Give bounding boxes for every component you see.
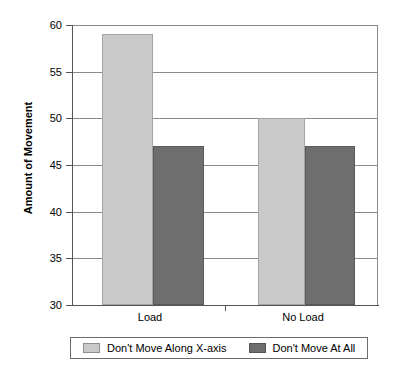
y-tick-label-45: 45 [30,159,62,171]
bar-load-dont-move-at-all [153,146,204,305]
bar-no-load-dont-move-along-x-axis [258,118,305,305]
y-tick-label-55: 55 [30,66,62,78]
y-tick-label-40: 40 [30,206,62,218]
legend-item-dont-move-along-x-axis: Don't Move Along X-axis [83,338,227,358]
y-tick-30 [66,305,72,306]
y-tick-label-30: 30 [30,299,62,311]
x-category-label-load: Load [138,311,162,323]
y-tick-55 [66,72,72,73]
bar-chart: Amount of Movement 60 55 50 45 40 35 30 … [0,0,397,374]
y-tick-50 [66,118,72,119]
legend-item-dont-move-at-all: Don't Move At All [249,338,356,358]
y-tick-40 [66,212,72,213]
y-tick-label-50: 50 [30,112,62,124]
y-tick-45 [66,165,72,166]
y-tick-35 [66,258,72,259]
legend-swatch-icon-light [83,343,100,353]
x-category-label-no-load: No Load [282,311,324,323]
bar-load-dont-move-along-x-axis [102,34,153,305]
y-tick-label-60: 60 [30,19,62,31]
gridline-60 [72,25,377,26]
y-tick-60 [66,25,72,26]
y-axis-line [72,25,73,306]
bar-no-load-dont-move-at-all [305,146,355,305]
legend-label-dont-move-along-x-axis: Don't Move Along X-axis [107,342,227,354]
x-category-separator [225,305,226,311]
legend-label-dont-move-at-all: Don't Move At All [273,342,356,354]
legend: Don't Move Along X-axis Don't Move At Al… [70,337,368,359]
legend-swatch-icon-dark [249,343,266,353]
y-tick-label-35: 35 [30,252,62,264]
plot-area [72,25,378,305]
